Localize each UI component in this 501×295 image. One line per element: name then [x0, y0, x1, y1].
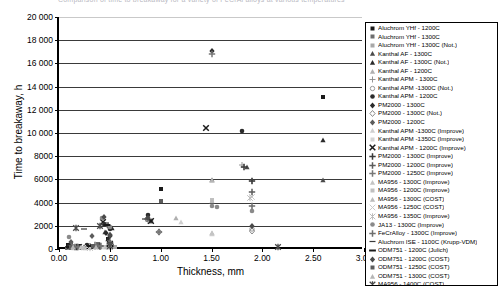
legend-item[interactable]: Kanthal AF - 1300C (Not.): [367, 58, 497, 67]
x-tick-label: 2.00: [254, 253, 271, 263]
legend-item[interactable]: ODM751 - 1250C (COST): [367, 263, 497, 272]
legend-label: Kanthal AF - 1200C: [378, 67, 432, 76]
x-tick: [59, 248, 60, 252]
x-tick-label: 0.50: [102, 253, 119, 263]
legend-marker-icon: [367, 93, 378, 101]
x-tick-label: 2.50: [305, 253, 322, 263]
legend-label: MA956 - 1300C (COST): [378, 195, 444, 204]
data-point: [144, 216, 151, 223]
x-tick-label: 1.50: [203, 253, 220, 263]
data-point: [106, 241, 113, 248]
legend-marker-icon: [367, 170, 378, 178]
legend-marker-icon: [367, 246, 378, 254]
gridline: [59, 110, 362, 111]
legend-item[interactable]: Kanthal APM -1300C (Not.): [367, 84, 497, 93]
legend-marker-icon: [367, 144, 378, 152]
legend-item[interactable]: Kanthal AF - 1300C: [367, 50, 497, 59]
legend-item[interactable]: ODM751 - 1300C (COST): [367, 272, 497, 281]
data-point: [155, 228, 162, 235]
data-point: [106, 239, 113, 246]
data-point: [68, 243, 75, 250]
legend-item[interactable]: PM2000 - 1250C (Improve): [367, 169, 497, 178]
legend-item[interactable]: FeCrAlloy - 1300C (Improve): [367, 229, 497, 238]
legend-item[interactable]: MA956 - 1400C (COST): [367, 280, 497, 286]
data-point: [74, 243, 81, 250]
y-tick-label: 16 000: [7, 58, 53, 68]
legend-item[interactable]: MA956 - 1300C (Improve): [367, 178, 497, 187]
legend-item[interactable]: ODM751 - 1200C (COST): [367, 255, 497, 264]
plot-area: 0200040006000800010 00012 00014 00016 00…: [57, 17, 362, 249]
legend-item[interactable]: PM2000 - 1200C: [367, 118, 497, 127]
legend-label: PM2000 - 1300C (Improve): [378, 152, 453, 161]
legend-label: Kanthal APM - 1200C (Improve): [378, 144, 466, 153]
data-point: [86, 243, 93, 250]
data-point: [66, 234, 73, 241]
y-tick: [55, 133, 59, 134]
legend-marker-icon: [367, 178, 378, 186]
legend-label: PM2000 - 1200C (Improve): [378, 161, 453, 170]
legend-item[interactable]: Kanthal APM -1350C (Improve): [367, 135, 497, 144]
legend-item[interactable]: PM2000 - 1300C (Not.): [367, 109, 497, 118]
legend-label: Kanthal APM -1350C (Improve): [378, 135, 464, 144]
data-point: [249, 189, 256, 196]
y-tick-label: 2000: [7, 221, 53, 231]
legend-item[interactable]: MA956 - 1200C (Improve): [367, 186, 497, 195]
y-tick: [55, 40, 59, 41]
legend-item[interactable]: Kanthal APM - 1200C: [367, 92, 497, 101]
data-point: [68, 239, 75, 246]
legend-item[interactable]: PM2000 - 1200C (Improve): [367, 161, 497, 170]
legend-item[interactable]: Aluchrom ISE - 1100C (Krupp-VDM): [367, 238, 497, 247]
legend-item[interactable]: Kanthal AF - 1200C: [367, 67, 497, 76]
legend-label: Kanthal APM - 1300C: [378, 75, 438, 84]
y-tick-label: 18 000: [7, 35, 53, 45]
data-point: [106, 240, 113, 247]
legend-marker-icon: [367, 58, 378, 66]
data-point: [67, 243, 74, 250]
gridline: [59, 40, 362, 41]
legend-item[interactable]: Kanthal APM -1300C (Improve): [367, 127, 497, 136]
data-point: [208, 230, 215, 237]
data-point: [100, 213, 107, 220]
legend-item[interactable]: PM2000 - 1300C (Improve): [367, 152, 497, 161]
data-point: [239, 161, 246, 168]
data-point: [244, 163, 251, 170]
data-point: [208, 203, 215, 210]
legend-item[interactable]: Aluchrom YHf - 1300C: [367, 33, 497, 42]
legend-item[interactable]: MA956 - 1350C (Improve): [367, 212, 497, 221]
legend-item[interactable]: Aluchrom YHf - 1200C: [367, 24, 497, 33]
data-point: [208, 230, 215, 237]
legend-item[interactable]: Kanthal APM - 1300C: [367, 75, 497, 84]
data-point: [208, 230, 215, 237]
legend-marker-icon: [367, 221, 378, 229]
gridline: [59, 87, 362, 88]
legend-marker-icon: [367, 101, 378, 109]
legend[interactable]: Aluchrom YHf - 1200CAluchrom YHf - 1300C…: [365, 22, 498, 286]
legend-marker-icon: [367, 33, 378, 41]
legend-item[interactable]: JA13 - 1300C (Improve): [367, 221, 497, 230]
legend-item[interactable]: Kanthal APM - 1200C (Improve): [367, 144, 497, 153]
legend-label: Kanthal AF - 1300C: [378, 50, 432, 59]
legend-marker-icon: [367, 118, 378, 126]
data-point: [147, 218, 154, 225]
legend-item[interactable]: PM2000 - 1300C: [367, 101, 497, 110]
legend-item[interactable]: ODM751 - 1200C (Julich): [367, 246, 497, 255]
data-point: [249, 228, 256, 235]
data-point: [241, 163, 248, 170]
legend-marker-icon: [367, 255, 378, 263]
legend-label: MA956 - 1200C (Improve): [378, 186, 450, 195]
legend-marker-icon: [367, 110, 378, 118]
data-point: [208, 48, 215, 55]
legend-marker-icon: [367, 238, 378, 246]
data-point: [249, 194, 256, 201]
gridline: [59, 63, 362, 64]
data-point: [106, 226, 113, 233]
legend-item[interactable]: MA956 - 1250C (COST): [367, 203, 497, 212]
data-point: [92, 243, 99, 250]
data-point: [106, 237, 113, 244]
legend-item[interactable]: Aluchrom YHf - 1300C (Not.): [367, 41, 497, 50]
data-point: [102, 229, 109, 236]
gridline: [59, 179, 362, 180]
gridline: [59, 226, 362, 227]
data-point: [106, 233, 113, 240]
legend-item[interactable]: MA956 - 1300C (COST): [367, 195, 497, 204]
